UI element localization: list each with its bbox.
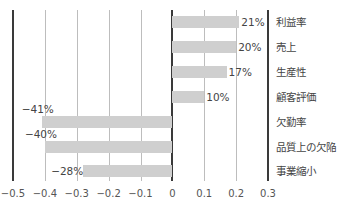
data-label: 21%: [241, 16, 264, 28]
x-tick-label: −0.3: [65, 188, 89, 199]
x-tick-label: 0.3: [260, 188, 276, 199]
bar: [172, 16, 239, 28]
category-label: 利益率: [276, 16, 306, 28]
x-tick-label: −0.1: [128, 188, 152, 199]
data-label: −28%: [51, 165, 83, 177]
grid-line: [141, 10, 142, 181]
x-tick-label: 0.1: [196, 188, 212, 199]
bar-chart: 21%利益率20%売上17%生産性10%顧客評価−41%欠勤率−40%品質上の欠…: [0, 0, 337, 203]
x-tick-label: −0.2: [96, 188, 120, 199]
category-label: 品質上の欠陥: [276, 141, 336, 153]
bar: [172, 66, 226, 78]
bar: [42, 116, 173, 128]
grid-line: [45, 10, 46, 181]
axis-line: [267, 10, 269, 181]
x-tick-label: 0.2: [228, 188, 244, 199]
bar: [172, 91, 204, 103]
axis-line: [12, 10, 14, 181]
data-label: 20%: [238, 41, 261, 53]
category-label: 生産性: [276, 66, 306, 78]
bar: [83, 165, 172, 177]
bar: [45, 141, 173, 153]
category-label: 顧客評価: [276, 91, 316, 103]
grid-line: [236, 10, 237, 181]
data-label: 17%: [229, 66, 252, 78]
category-label: 売上: [276, 41, 296, 53]
grid-line: [109, 10, 110, 181]
data-label: −40%: [25, 128, 57, 140]
grid-line: [204, 10, 205, 181]
category-label: 事業縮小: [276, 165, 316, 177]
x-tick-label: −0.4: [33, 188, 57, 199]
bar: [172, 41, 236, 53]
x-tick-label: −0.5: [1, 188, 25, 199]
data-label: 10%: [206, 91, 229, 103]
x-tick-label: 0: [169, 188, 175, 199]
data-label: −41%: [22, 103, 54, 115]
grid-line: [77, 10, 78, 181]
category-label: 欠勤率: [276, 116, 306, 128]
